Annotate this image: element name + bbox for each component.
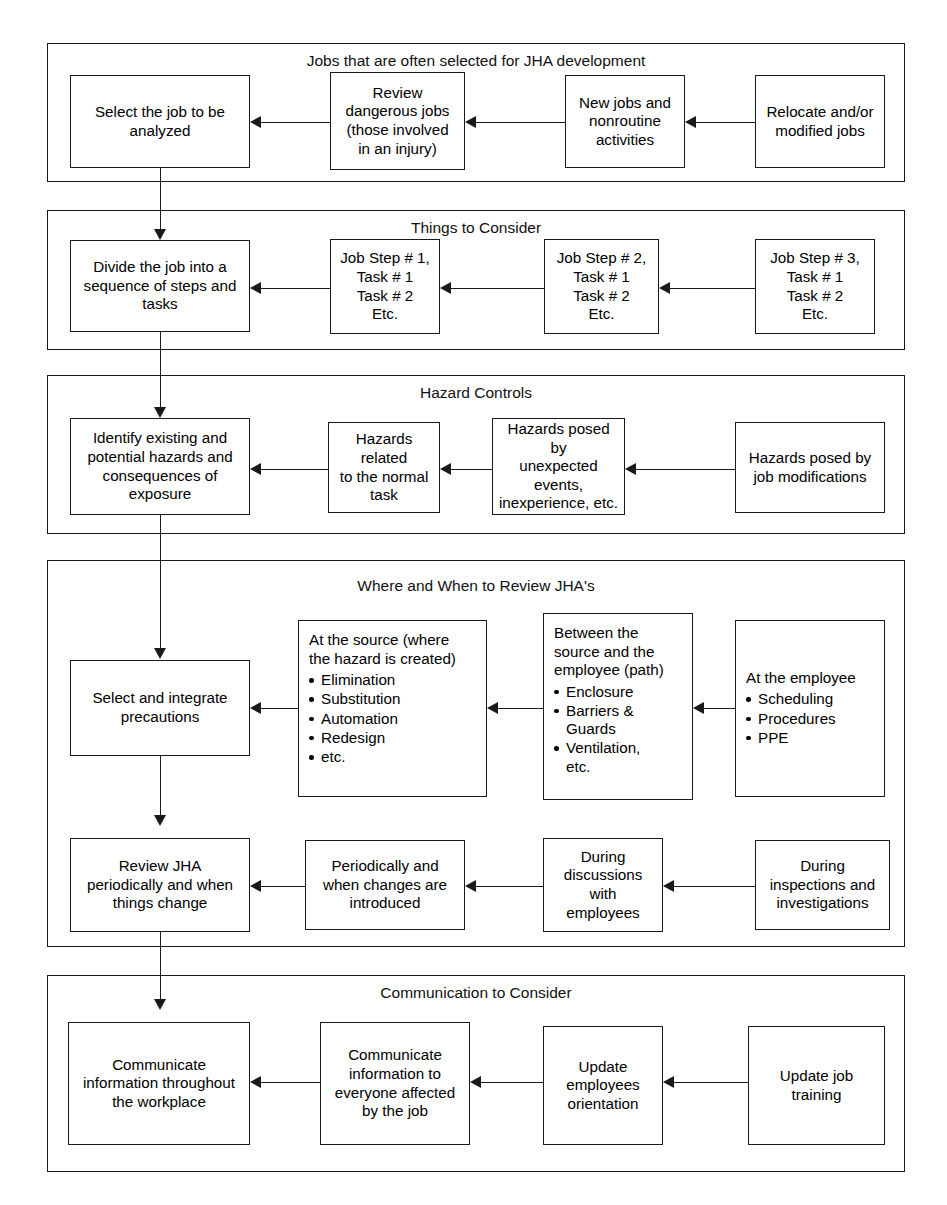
node-update-training-label: Update job training bbox=[749, 1067, 884, 1104]
bullet-item: Enclosure bbox=[566, 683, 686, 701]
node-between-source-employee-heading: Between the source and the employee (pat… bbox=[544, 624, 692, 680]
connector-review-to-select bbox=[261, 122, 330, 123]
arrowhead-select-job bbox=[250, 116, 261, 128]
arrowhead-communicate-workplace bbox=[250, 1076, 261, 1088]
node-update-orientation-label: Update employees orientation bbox=[544, 1058, 662, 1114]
bullet-item: Ventilation, etc. bbox=[566, 739, 686, 775]
node-relocate-modified-label: Relocate and/or modified jobs bbox=[756, 103, 884, 140]
section-heading-jobs-selected: Jobs that are often selected for JHA dev… bbox=[48, 52, 904, 71]
node-between-source-employee: Between the source and the employee (pat… bbox=[543, 613, 693, 800]
node-job-step-2: Job Step # 2, Task # 1 Task # 2 Etc. bbox=[544, 239, 659, 334]
arrowhead-communicate-everyone bbox=[470, 1076, 481, 1088]
node-hazards-modifications: Hazards posed by job modifications bbox=[735, 422, 885, 513]
node-during-inspections: During inspections and investigations bbox=[755, 840, 890, 930]
connector-source-to-precautions bbox=[261, 708, 298, 709]
node-periodically-changes-label: Periodically and when changes are introd… bbox=[306, 857, 464, 913]
node-job-step-3-label: Job Step # 3, Task # 1 Task # 2 Etc. bbox=[756, 249, 874, 323]
arrowhead-review-dangerous bbox=[465, 116, 476, 128]
node-review-dangerous: Review dangerous jobs (those involved in… bbox=[330, 72, 465, 170]
node-update-training: Update job training bbox=[748, 1026, 885, 1145]
node-during-inspections-label: During inspections and investigations bbox=[756, 857, 889, 913]
bullet-item: Scheduling bbox=[758, 690, 878, 708]
connector-reviewjha-to-communicate bbox=[160, 932, 161, 1000]
arrowhead-select-precautions bbox=[250, 702, 261, 714]
bullet-item: Automation bbox=[321, 710, 480, 728]
arrowhead-divide-job bbox=[250, 282, 261, 294]
jha-flowchart-canvas: Jobs that are often selected for JHA dev… bbox=[0, 0, 947, 1205]
node-select-precautions-label: Select and integrate precautions bbox=[71, 689, 249, 726]
node-job-step-2-label: Job Step # 2, Task # 1 Task # 2 Etc. bbox=[545, 249, 658, 323]
node-at-the-employee: At the employee Scheduling Procedures PP… bbox=[735, 620, 885, 797]
node-review-jha-label: Review JHA periodically and when things … bbox=[71, 857, 249, 913]
connector-between-to-source bbox=[498, 708, 543, 709]
node-hazards-normal: Hazards related to the normal task bbox=[328, 422, 440, 513]
connector-hazunexp-to-haznormal bbox=[451, 469, 492, 470]
node-new-jobs: New jobs and nonroutine activities bbox=[565, 75, 685, 168]
connector-training-to-orientation bbox=[674, 1082, 748, 1083]
bullet-item: Elimination bbox=[321, 671, 480, 689]
node-communicate-workplace: Communicate information throughout the w… bbox=[68, 1022, 250, 1145]
connector-haznormal-to-identify bbox=[261, 469, 328, 470]
bullet-item: Substitution bbox=[321, 690, 480, 708]
node-at-the-source: At the source (where the hazard is creat… bbox=[298, 620, 487, 797]
node-communicate-everyone-label: Communicate information to everyone affe… bbox=[321, 1046, 469, 1120]
connector-orientation-to-everyone bbox=[481, 1082, 543, 1083]
node-new-jobs-label: New jobs and nonroutine activities bbox=[566, 94, 684, 150]
bullet-item: etc. bbox=[321, 748, 480, 766]
connector-discussions-to-periodically bbox=[476, 886, 543, 887]
connector-step2-to-step1 bbox=[451, 288, 544, 289]
arrowhead-between-source-employee bbox=[693, 702, 704, 714]
bullet-item: Procedures bbox=[758, 710, 878, 728]
connector-newjobs-to-review bbox=[476, 122, 565, 123]
node-divide-job-label: Divide the job into a sequence of steps … bbox=[71, 258, 249, 314]
arrowhead-review-jha bbox=[250, 880, 261, 892]
arrowhead-review-jha-top bbox=[154, 815, 166, 826]
connector-dividejob-to-identify bbox=[160, 332, 161, 408]
connector-step3-to-step2 bbox=[670, 288, 755, 289]
node-periodically-changes: Periodically and when changes are introd… bbox=[305, 840, 465, 930]
connector-step1-to-divide bbox=[261, 288, 330, 289]
node-between-source-employee-bullets: Enclosure Barriers & Guards Ventilation,… bbox=[544, 682, 692, 777]
arrowhead-job-step-1 bbox=[440, 282, 451, 294]
arrowhead-divide-job-top bbox=[154, 229, 166, 240]
arrowhead-select-precautions-top bbox=[154, 648, 166, 659]
connector-inspections-to-discussions bbox=[674, 886, 755, 887]
connector-identify-to-precautions bbox=[160, 515, 161, 649]
node-during-discussions: During discussions with employees bbox=[543, 838, 663, 932]
node-divide-job: Divide the job into a sequence of steps … bbox=[70, 240, 250, 332]
node-communicate-workplace-label: Communicate information throughout the w… bbox=[69, 1056, 249, 1112]
connector-employee-to-between bbox=[704, 708, 735, 709]
arrowhead-identify-hazards-top bbox=[154, 407, 166, 418]
connector-periodically-to-reviewjha bbox=[261, 886, 305, 887]
node-hazards-unexpected: Hazards posed by unexpected events, inex… bbox=[492, 418, 625, 515]
node-update-orientation: Update employees orientation bbox=[543, 1026, 663, 1145]
node-select-precautions: Select and integrate precautions bbox=[70, 660, 250, 756]
node-select-job-label: Select the job to be analyzed bbox=[71, 103, 249, 140]
arrowhead-during-discussions bbox=[663, 880, 674, 892]
arrowhead-at-the-source bbox=[487, 702, 498, 714]
node-identify-hazards-label: Identify existing and potential hazards … bbox=[71, 429, 249, 503]
node-at-the-source-bullets: Elimination Substitution Automation Rede… bbox=[299, 670, 486, 767]
node-relocate-modified: Relocate and/or modified jobs bbox=[755, 75, 885, 168]
node-communicate-everyone: Communicate information to everyone affe… bbox=[320, 1022, 470, 1145]
arrowhead-hazards-unexpected bbox=[625, 463, 636, 475]
section-heading-where-when-review: Where and When to Review JHA's bbox=[48, 577, 904, 596]
node-job-step-3: Job Step # 3, Task # 1 Task # 2 Etc. bbox=[755, 239, 875, 334]
node-during-discussions-label: During discussions with employees bbox=[544, 848, 662, 922]
node-at-the-employee-heading: At the employee bbox=[736, 669, 884, 688]
connector-everyone-to-workplace bbox=[261, 1082, 320, 1083]
arrowhead-update-orientation bbox=[663, 1076, 674, 1088]
connector-hazmod-to-hazunexp bbox=[636, 469, 735, 470]
node-hazards-modifications-label: Hazards posed by job modifications bbox=[736, 449, 884, 486]
node-review-jha: Review JHA periodically and when things … bbox=[70, 838, 250, 932]
bullet-item: PPE bbox=[758, 729, 878, 747]
node-hazards-normal-label: Hazards related to the normal task bbox=[329, 430, 439, 504]
bullet-item: Redesign bbox=[321, 729, 480, 747]
node-review-dangerous-label: Review dangerous jobs (those involved in… bbox=[331, 84, 464, 158]
section-heading-hazard-controls: Hazard Controls bbox=[48, 384, 904, 403]
arrowhead-hazards-normal bbox=[440, 463, 451, 475]
arrowhead-newjobs bbox=[685, 116, 696, 128]
node-identify-hazards: Identify existing and potential hazards … bbox=[70, 418, 250, 515]
node-job-step-1: Job Step # 1, Task # 1 Task # 2 Etc. bbox=[330, 239, 440, 334]
arrowhead-identify-hazards bbox=[250, 463, 261, 475]
